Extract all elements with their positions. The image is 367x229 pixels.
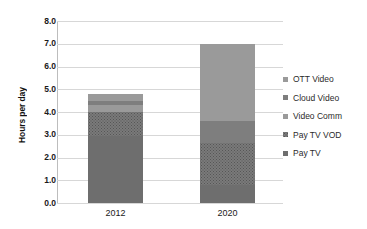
y-axis-tick-label: 2.0 xyxy=(30,153,56,162)
legend-item-cloud-video[interactable]: Cloud Video xyxy=(283,89,367,108)
bar-segment-cloud-video xyxy=(88,101,143,106)
y-axis-tick-labels: 8.07.06.05.04.03.02.01.00.0 xyxy=(28,0,56,229)
bar-2020 xyxy=(200,21,255,203)
legend-swatch-icon xyxy=(283,151,288,156)
legend-label: Pay TV xyxy=(293,149,321,158)
chart-legend: OTT VideoCloud VideoVideo CommPay TV VOD… xyxy=(283,70,367,163)
x-axis-tick-label: 2012 xyxy=(81,208,151,218)
bar-segment-cloud-video xyxy=(200,121,255,143)
y-axis-tick-label: 8.0 xyxy=(30,17,56,26)
legend-item-pay-tv[interactable]: Pay TV xyxy=(283,144,367,163)
legend-swatch-icon xyxy=(283,95,288,100)
bar-2012 xyxy=(88,21,143,203)
bar-segment-pay-tv-vod xyxy=(88,112,143,136)
legend-swatch-icon xyxy=(283,77,288,82)
y-axis-tick-label: 6.0 xyxy=(30,62,56,71)
bar-segment-video-comm xyxy=(88,105,143,112)
legend-swatch-icon xyxy=(283,114,288,119)
legend-swatch-icon xyxy=(283,132,288,137)
legend-item-ott-video[interactable]: OTT Video xyxy=(283,70,367,89)
legend-label: OTT Video xyxy=(293,75,334,84)
legend-item-pay-tv-vod[interactable]: Pay TV VOD xyxy=(283,126,367,145)
legend-label: Video Comm xyxy=(293,112,342,121)
bar-segment-ott-video xyxy=(200,44,255,121)
plot-area xyxy=(57,21,283,203)
bar-segment-pay-tv-vod xyxy=(200,143,255,185)
y-axis-tick-label: 3.0 xyxy=(30,130,56,139)
x-axis-tick-label: 2020 xyxy=(193,208,263,218)
gridline xyxy=(57,203,283,204)
y-axis-tick-label: 4.0 xyxy=(30,108,56,117)
bar-segment-pay-tv xyxy=(200,185,255,203)
legend-item-video-comm[interactable]: Video Comm xyxy=(283,107,367,126)
bar-segment-pay-tv xyxy=(88,136,143,203)
legend-label: Cloud Video xyxy=(293,94,339,103)
y-axis-tick-label: 1.0 xyxy=(30,176,56,185)
y-axis-tick-label: 5.0 xyxy=(30,85,56,94)
legend-label: Pay TV VOD xyxy=(293,131,342,140)
bar-segment-ott-video xyxy=(88,94,143,101)
chart-container: Hours per day 8.07.06.05.04.03.02.01.00.… xyxy=(0,0,367,229)
y-axis-tick-label: 0.0 xyxy=(30,199,56,208)
y-axis-tick-label: 7.0 xyxy=(30,39,56,48)
